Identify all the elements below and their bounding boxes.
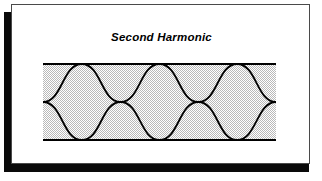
harmonic-curves xyxy=(43,62,276,142)
standing-wave-diagram xyxy=(43,62,276,142)
figure-panel: Second Harmonic xyxy=(11,4,310,164)
wave-curve-positive xyxy=(43,64,276,140)
figure-canvas: Second Harmonic xyxy=(0,0,322,181)
figure-title: Second Harmonic xyxy=(12,31,311,43)
panel-shadow-bottom xyxy=(4,164,309,172)
wave-curve-negative xyxy=(43,64,276,140)
